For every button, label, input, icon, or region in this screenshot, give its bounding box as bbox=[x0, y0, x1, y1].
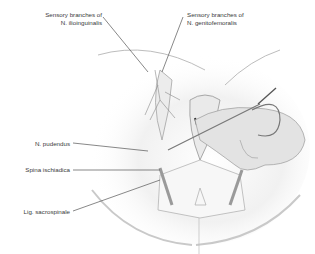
label-line: N. genitofemoralis bbox=[187, 19, 244, 27]
illustration bbox=[0, 0, 315, 254]
label-line: Sensory branches of bbox=[187, 11, 244, 19]
label-n-genitofemoralis: Sensory branches of N. genitofemoralis bbox=[187, 11, 244, 26]
label-line: N. ilioinguinalis bbox=[20, 19, 102, 27]
label-lig-sacrospinale: Lig. sacrospinale bbox=[5, 208, 70, 216]
anatomy-figure: Sensory branches of N. ilioinguinalis Se… bbox=[0, 0, 315, 254]
label-line: Sensory branches of bbox=[20, 11, 102, 19]
label-n-pudendus: N. pudendus bbox=[10, 140, 70, 148]
label-spina-ischiadica: Spina ischiadica bbox=[10, 166, 70, 174]
label-n-ilioinguinalis: Sensory branches of N. ilioinguinalis bbox=[20, 11, 102, 26]
